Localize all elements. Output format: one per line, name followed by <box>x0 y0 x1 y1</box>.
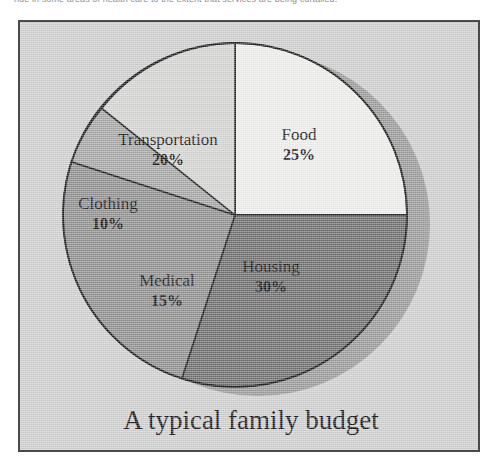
cropped-header-text: nue in some areas of health care to the … <box>14 0 484 5</box>
pie-chart: Food 25% Housing 30% Medical 15% Clothin… <box>20 22 480 452</box>
pie-slice-food[interactable] <box>235 43 407 215</box>
figure-panel: Food 25% Housing 30% Medical 15% Clothin… <box>18 20 480 452</box>
pie-chart-svg <box>20 22 480 452</box>
chart-caption: A typical family budget <box>20 404 480 436</box>
